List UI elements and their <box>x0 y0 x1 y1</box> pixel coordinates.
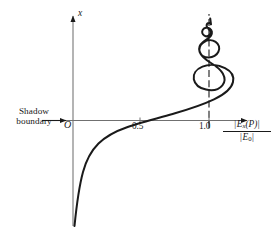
shadow-boundary-label: Shadow boundary <box>5 107 63 127</box>
x-tick-label-1.0: 1.0 <box>199 122 210 132</box>
denominator-subscript: 0 <box>248 135 251 142</box>
axis-label-numerator: |Ex(P)| <box>220 120 274 131</box>
x-tick-label-0.5: 0.5 <box>132 122 143 132</box>
numerator-argument: (P) <box>245 119 257 129</box>
horizontal-axis-label: |Ex(P)| |E0| <box>220 120 274 143</box>
diffraction-amplitude-figure: Shadow boundary x O 0.5 1.0 |Ex(P)| |E0| <box>0 0 276 230</box>
origin-label: O <box>64 120 71 131</box>
vertical-axis-label: x <box>78 8 82 18</box>
shadow-boundary-line-2: boundary <box>5 117 63 127</box>
numerator-right-bar: | <box>257 119 260 129</box>
denominator-right-bar: | <box>252 132 255 142</box>
axis-label-denominator: |E0| <box>220 132 274 143</box>
